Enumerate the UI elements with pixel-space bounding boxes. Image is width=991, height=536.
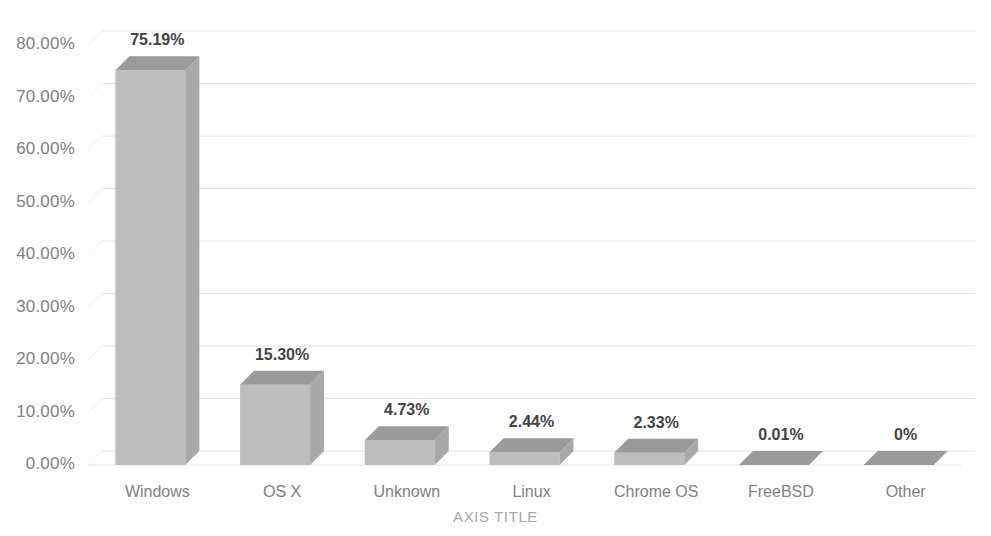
y-axis-tick-label: 20.00% xyxy=(0,349,75,369)
y-axis-tick-label: 80.00% xyxy=(0,34,75,54)
chart-container: 0.00%10.00%20.00%30.00%40.00%50.00%60.00… xyxy=(0,0,991,536)
category-label-linux: Linux xyxy=(465,483,599,501)
y-axis-tick-label: 10.00% xyxy=(0,402,75,422)
data-label-chrome-os: 2.33% xyxy=(596,414,716,432)
category-label-other: Other xyxy=(839,483,973,501)
data-label-windows: 75.19% xyxy=(97,31,217,49)
category-label-unknown: Unknown xyxy=(340,483,474,501)
category-label-windows: Windows xyxy=(90,483,224,501)
y-axis-tick-label: 60.00% xyxy=(0,139,75,159)
x-axis-title: AXIS TITLE xyxy=(0,508,991,525)
data-label-linux: 2.44% xyxy=(472,413,592,431)
data-label-other: 0% xyxy=(846,426,966,444)
y-axis-tick-label: 50.00% xyxy=(0,192,75,212)
category-label-chrome-os: Chrome OS xyxy=(589,483,723,501)
y-axis-tick-label: 30.00% xyxy=(0,297,75,317)
y-axis-tick-label: 40.00% xyxy=(0,244,75,264)
category-label-freebsd: FreeBSD xyxy=(714,483,848,501)
data-label-os-x: 15.30% xyxy=(222,346,342,364)
y-axis-tick-label: 0.00% xyxy=(0,454,75,474)
y-axis-tick-label: 70.00% xyxy=(0,87,75,107)
data-label-unknown: 4.73% xyxy=(347,401,467,419)
category-label-os-x: OS X xyxy=(215,483,349,501)
data-label-freebsd: 0.01% xyxy=(721,426,841,444)
chart-gridlines xyxy=(0,0,991,536)
